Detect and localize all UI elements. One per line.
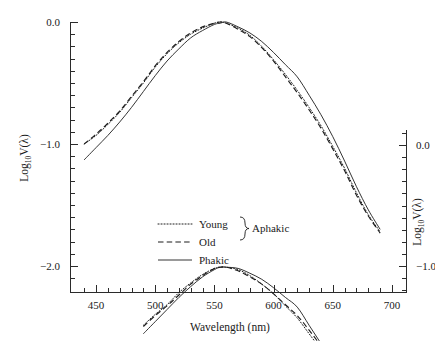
- right-y-title-main: Log: [411, 227, 424, 246]
- bottom-tick-label: 450: [88, 299, 105, 311]
- left-y-axis-title: Log10V(λ): [18, 134, 33, 182]
- svg-text:Log10V(λ): Log10V(λ): [411, 198, 426, 246]
- left-y-title-main: Log: [18, 163, 31, 182]
- right-axis-ticks: [399, 133, 407, 290]
- left-tick-label: −2.0: [40, 260, 60, 272]
- right-y-axis-title: Log10V(λ): [411, 198, 426, 246]
- left-axis-ticks: [71, 23, 78, 279]
- legend-label-old: Old: [199, 236, 216, 248]
- curve-upper-old: [84, 22, 380, 233]
- curve-upper-phakic: [84, 22, 380, 230]
- left-axis-line: [71, 22, 407, 293]
- left-axis-tick-labels: 0.0−1.0−2.0: [40, 16, 60, 272]
- curve-upper-young: [84, 22, 380, 232]
- left-tick-label: −1.0: [40, 138, 60, 150]
- right-y-title-tail: V(λ): [411, 198, 424, 220]
- right-tick-label: 0.0: [416, 139, 430, 151]
- legend-brace: [240, 217, 249, 240]
- bottom-tick-label: 600: [265, 299, 282, 311]
- legend-group-label: Aphakic: [252, 222, 289, 234]
- left-tick-label: 0.0: [46, 16, 60, 28]
- left-y-title-tail: V(λ): [18, 134, 31, 156]
- upper-curve-group: [84, 22, 380, 233]
- legend-label-young: Young: [199, 218, 228, 230]
- bottom-tick-label: 700: [384, 299, 401, 311]
- svg-text:Log10V(λ): Log10V(λ): [18, 134, 33, 182]
- chart-legend: Young Old Phakic Aphakic: [158, 217, 289, 266]
- legend-label-phakic: Phakic: [199, 254, 229, 266]
- bottom-axis-tick-labels: 450500550600650700: [88, 299, 401, 311]
- bottom-tick-label: 550: [206, 299, 223, 311]
- chart-figure: 0.0−1.0−2.0 450500550600650700 0.0−1.0 W…: [0, 0, 435, 341]
- right-tick-label: −1.0: [416, 260, 435, 272]
- x-axis-title: Wavelength (nm): [190, 321, 270, 334]
- bottom-axis-ticks: [85, 285, 393, 293]
- spectral-sensitivity-svg: 0.0−1.0−2.0 450500550600650700 0.0−1.0 W…: [0, 0, 435, 341]
- bottom-tick-label: 650: [325, 299, 342, 311]
